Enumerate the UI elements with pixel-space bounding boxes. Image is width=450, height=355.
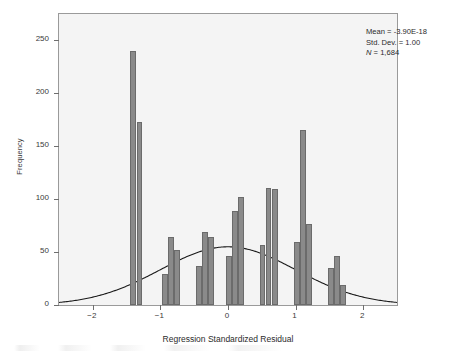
y-axis-tick	[54, 252, 59, 253]
histogram-bar	[340, 285, 346, 305]
histogram-bar	[174, 250, 180, 305]
scan-artifact	[14, 345, 314, 351]
page-root: Frequency Regression Standardized Residu…	[0, 0, 450, 355]
histogram-bar	[226, 256, 232, 305]
histogram-bar	[294, 242, 300, 305]
x-axis-tick	[93, 305, 94, 310]
x-axis-label: 0	[207, 311, 247, 320]
y-axis-label: 100	[0, 193, 49, 202]
x-axis-tick	[363, 305, 364, 310]
x-axis-tick	[296, 305, 297, 310]
x-axis-tick	[228, 305, 229, 310]
histogram-bar	[162, 274, 168, 305]
y-axis-tick	[54, 40, 59, 41]
histogram-figure: Frequency Regression Standardized Residu…	[0, 0, 450, 355]
stats-n: N = 1,684	[366, 48, 427, 59]
x-axis-label: −2	[72, 311, 112, 320]
histogram-bar	[196, 266, 202, 305]
stats-mean: Mean = -3.90E-18	[366, 27, 427, 38]
plot-area	[59, 14, 397, 305]
histogram-bar	[137, 122, 143, 305]
y-axis-tick	[54, 305, 59, 306]
x-axis-label: 1	[275, 311, 315, 320]
histogram-bar	[328, 268, 334, 305]
y-axis-tick	[54, 93, 59, 94]
histogram-bar	[238, 197, 244, 305]
x-axis-label: 2	[342, 311, 382, 320]
y-axis-label: 150	[0, 140, 49, 149]
histogram-bar	[202, 232, 208, 305]
histogram-bar	[334, 256, 340, 305]
y-axis-tick	[54, 199, 59, 200]
stats-annotation: Mean = -3.90E-18 Std. Dev. = 1.00 N = 1,…	[366, 27, 427, 59]
y-axis-label: 50	[0, 246, 49, 255]
histogram-bar	[260, 245, 266, 305]
histogram-bar	[232, 211, 238, 305]
y-axis-title: Frequency	[15, 112, 24, 202]
y-axis-tick	[54, 146, 59, 147]
histogram-bar	[168, 237, 174, 305]
stats-std-dev: Std. Dev. = 1.00	[366, 38, 427, 49]
x-axis-tick	[160, 305, 161, 310]
x-axis-label: −1	[139, 311, 179, 320]
histogram-bar	[306, 224, 312, 305]
histogram-bar	[266, 188, 272, 305]
stats-n-value: = 1,684	[371, 48, 399, 57]
histogram-bar	[208, 237, 214, 305]
x-axis-title: Regression Standardized Residual	[58, 334, 398, 344]
histogram-bar	[130, 51, 136, 305]
y-axis-label: 0	[0, 299, 49, 308]
histogram-bar	[272, 189, 278, 305]
histogram-bar	[300, 130, 306, 305]
y-axis-label: 250	[0, 34, 49, 43]
y-axis-label: 200	[0, 87, 49, 96]
plot-panel	[58, 13, 398, 306]
